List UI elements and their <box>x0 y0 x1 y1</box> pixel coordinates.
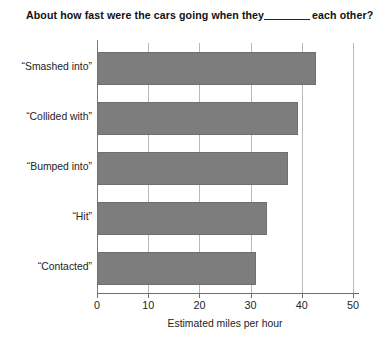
y-axis-category-label: “Bumped into” <box>4 161 92 172</box>
plot-area <box>97 43 353 293</box>
x-axis-tick-mark <box>302 293 303 298</box>
bar <box>97 52 316 85</box>
bar-row <box>97 102 353 135</box>
y-axis-category-label: “Hit” <box>4 211 92 222</box>
chart-title: About how fast were the cars going when … <box>26 9 366 21</box>
x-axis-tick-label: 30 <box>236 299 266 311</box>
gridline <box>353 43 354 293</box>
x-axis-tick-mark <box>97 293 98 298</box>
bar <box>97 102 298 135</box>
x-axis-line <box>97 293 359 294</box>
x-axis-tick-label: 10 <box>133 299 163 311</box>
bar-row <box>97 252 353 285</box>
y-axis-category-label: “Smashed into” <box>4 61 92 72</box>
bar-row <box>97 202 353 235</box>
bar-row <box>97 52 353 85</box>
x-axis-tick-mark <box>353 293 354 298</box>
x-axis-tick-label: 50 <box>338 299 368 311</box>
y-axis-category-labels: “Smashed into”“Collided with”“Bumped int… <box>0 43 92 293</box>
x-axis-tick-mark <box>199 293 200 298</box>
chart-title-text-before: About how fast were the cars going when … <box>26 9 264 21</box>
chart-title-text-after: each other? <box>312 9 373 21</box>
bar-chart-figure: About how fast were the cars going when … <box>0 0 380 346</box>
bar <box>97 202 267 235</box>
chart-title-blank <box>264 19 310 20</box>
x-axis-tick-mark <box>148 293 149 298</box>
bar-row <box>97 152 353 185</box>
x-axis-tick-label: 40 <box>287 299 317 311</box>
y-axis-category-label: “Collided with” <box>4 111 92 122</box>
x-axis-tick-label: 0 <box>82 299 112 311</box>
x-axis-label: Estimated miles per hour <box>97 318 353 329</box>
bar <box>97 152 288 185</box>
y-axis-category-label: “Contacted” <box>4 261 92 272</box>
x-axis-tick-label: 20 <box>184 299 214 311</box>
x-axis-tick-mark <box>251 293 252 298</box>
bar <box>97 252 256 285</box>
